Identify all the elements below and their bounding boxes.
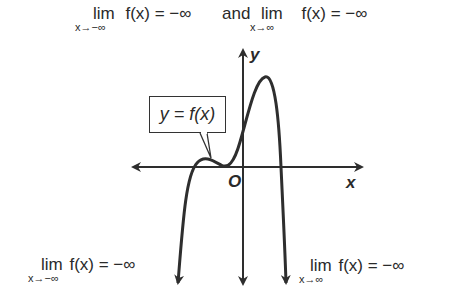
lim-subscript: x→∞ — [299, 274, 323, 285]
lim-expression: f(x) = −∞ — [69, 255, 135, 274]
label-pointer — [200, 133, 211, 158]
origin-label: O — [228, 172, 241, 192]
bottom-right-limit: lim x→∞ f(x) = −∞ — [310, 257, 404, 274]
lim-expression: f(x) = −∞ — [338, 256, 404, 275]
curve-label: y = f(x) — [149, 96, 226, 133]
x-axis-label: x — [346, 173, 355, 193]
lim-subscript: x→−∞ — [28, 273, 59, 284]
bottom-left-limit: lim x→−∞ f(x) = −∞ — [41, 256, 135, 273]
y-axis-label: y — [250, 45, 259, 65]
